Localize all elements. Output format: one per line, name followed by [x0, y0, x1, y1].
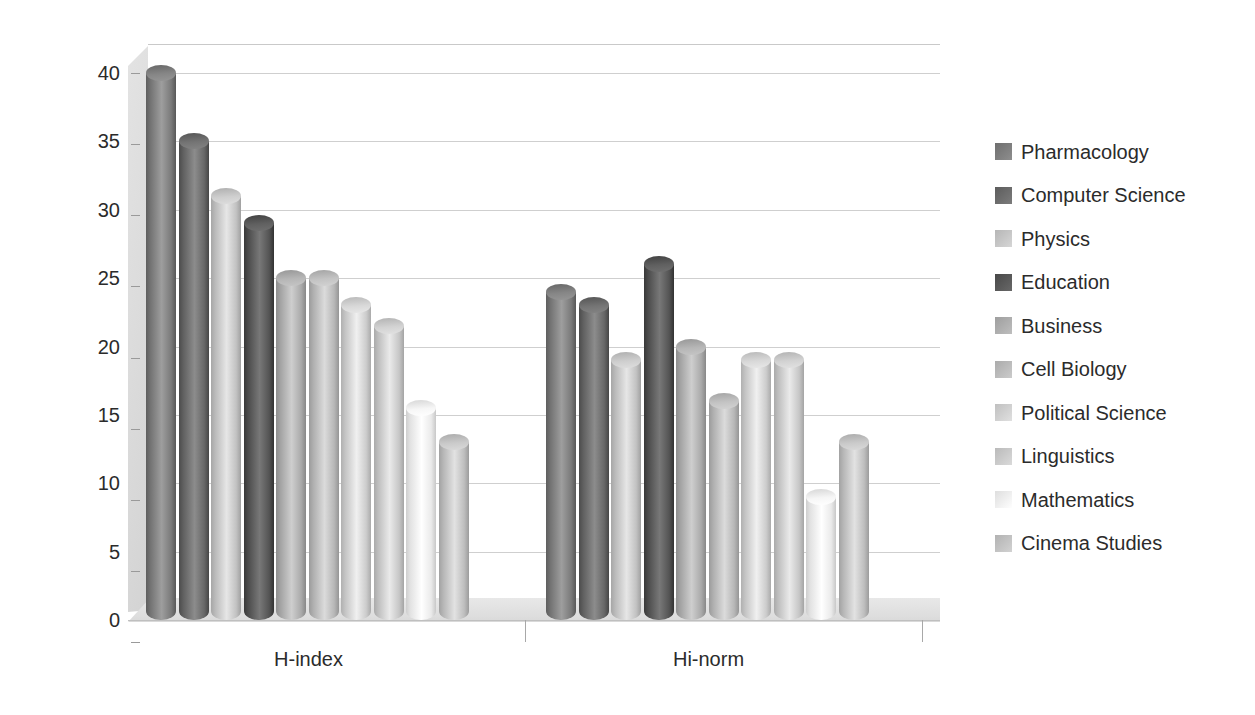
bar-cylinder-body — [211, 196, 241, 620]
bar-cylinder-cap — [211, 188, 241, 204]
bar-cylinder-body — [709, 401, 739, 620]
legend-swatch-icon — [995, 230, 1012, 247]
legend-item[interactable]: Education — [995, 261, 1250, 305]
bar-cylinder-body — [439, 442, 469, 620]
legend-swatch-icon — [995, 361, 1012, 378]
bar — [146, 73, 176, 620]
legend-item-label: Political Science — [1021, 403, 1167, 423]
x-axis-end-tick — [922, 620, 923, 642]
legend-swatch-icon — [995, 404, 1012, 421]
bar — [211, 196, 241, 620]
x-axis-group-separator-tick — [525, 620, 526, 642]
legend: PharmacologyComputer SciencePhysicsEduca… — [995, 130, 1250, 565]
legend-item[interactable]: Pharmacology — [995, 130, 1250, 174]
bar — [644, 264, 674, 620]
legend-swatch-icon — [995, 448, 1012, 465]
legend-item[interactable]: Political Science — [995, 391, 1250, 435]
chart-floor-edge — [128, 620, 940, 621]
legend-item[interactable]: Cinema Studies — [995, 522, 1250, 566]
bar — [676, 347, 706, 621]
bar-cylinder-body — [244, 223, 274, 620]
bar-cylinder-cap — [309, 270, 339, 286]
legend-swatch-icon — [995, 491, 1012, 508]
bar — [276, 278, 306, 620]
bar-cylinder-cap — [676, 339, 706, 355]
legend-item[interactable]: Mathematics — [995, 478, 1250, 522]
bar-cylinder-body — [341, 305, 371, 620]
bar-cylinder-cap — [546, 284, 576, 300]
bar-cylinder-body — [839, 442, 869, 620]
bar-cylinder-cap — [439, 434, 469, 450]
bar-cylinder-body — [806, 497, 836, 620]
bar — [709, 401, 739, 620]
bar-cylinder-body — [741, 360, 771, 620]
bar-chart: 4035302520151050 H-indexHi-norm Pharmaco… — [0, 0, 1255, 715]
bar — [374, 326, 404, 620]
bar-cylinder-cap — [709, 393, 739, 409]
bar — [806, 497, 836, 620]
bar — [546, 292, 576, 620]
bar — [406, 408, 436, 620]
legend-item-label: Pharmacology — [1021, 142, 1149, 162]
bar-cylinder-cap — [146, 65, 176, 81]
bar-cylinder-body — [611, 360, 641, 620]
legend-swatch-icon — [995, 143, 1012, 160]
x-axis-category-label: H-index — [219, 648, 399, 671]
bar-cylinder-body — [309, 278, 339, 620]
bar — [309, 278, 339, 620]
bar-cylinder-body — [179, 141, 209, 620]
bar — [579, 305, 609, 620]
bar-cylinder-cap — [806, 489, 836, 505]
x-axis-category-label: Hi-norm — [619, 648, 799, 671]
bar — [179, 141, 209, 620]
bar-cylinder-cap — [374, 318, 404, 334]
bar — [244, 223, 274, 620]
legend-swatch-icon — [995, 274, 1012, 291]
legend-item[interactable]: Linguistics — [995, 435, 1250, 479]
bar — [439, 442, 469, 620]
bar — [741, 360, 771, 620]
legend-item-label: Computer Science — [1021, 185, 1186, 205]
legend-swatch-icon — [995, 187, 1012, 204]
bar-cylinder-body — [579, 305, 609, 620]
bar-cylinder-body — [146, 73, 176, 620]
bar-cylinder-body — [374, 326, 404, 620]
legend-item[interactable]: Business — [995, 304, 1250, 348]
bar-cylinder-cap — [839, 434, 869, 450]
legend-item[interactable]: Physics — [995, 217, 1250, 261]
legend-item-label: Linguistics — [1021, 446, 1114, 466]
legend-item-label: Business — [1021, 316, 1102, 336]
bar-cylinder-cap — [406, 400, 436, 416]
legend-item[interactable]: Computer Science — [995, 174, 1250, 218]
bar — [839, 442, 869, 620]
legend-item-label: Education — [1021, 272, 1110, 292]
bar-cylinder-cap — [774, 352, 804, 368]
legend-item-label: Physics — [1021, 229, 1090, 249]
bar — [341, 305, 371, 620]
bar-cylinder-body — [676, 347, 706, 621]
bar-cylinder-body — [774, 360, 804, 620]
bar-cylinder-body — [276, 278, 306, 620]
legend-swatch-icon — [995, 317, 1012, 334]
bar-cylinder-body — [546, 292, 576, 620]
legend-item-label: Cinema Studies — [1021, 533, 1162, 553]
bar-cylinder-body — [644, 264, 674, 620]
bar — [774, 360, 804, 620]
legend-item[interactable]: Cell Biology — [995, 348, 1250, 392]
bar — [611, 360, 641, 620]
legend-swatch-icon — [995, 535, 1012, 552]
legend-item-label: Cell Biology — [1021, 359, 1127, 379]
legend-item-label: Mathematics — [1021, 490, 1134, 510]
bar-cylinder-body — [406, 408, 436, 620]
